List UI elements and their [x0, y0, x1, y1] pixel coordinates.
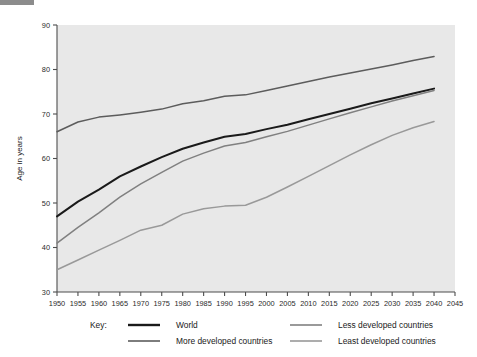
- y-axis-title: Age in years: [15, 136, 24, 180]
- x-axis-tick-label: 1980: [174, 299, 190, 308]
- x-axis-tick-label: 1985: [195, 299, 211, 308]
- x-axis-tick-label: 1955: [70, 299, 86, 308]
- x-axis-tick-label: 1995: [237, 299, 253, 308]
- x-axis-tick-label: 2025: [363, 299, 379, 308]
- legend-label-more-developed-countries: More developed countries: [176, 336, 272, 346]
- x-axis-tick-label: 1965: [112, 299, 128, 308]
- x-axis-tick-label: 1990: [216, 299, 232, 308]
- y-axis-tick-label: 90: [42, 21, 50, 30]
- x-axis-tick-label: 1950: [49, 299, 65, 308]
- x-axis-tick-label: 2020: [342, 299, 358, 308]
- x-axis-tick-label: 1970: [133, 299, 149, 308]
- life-expectancy-chart-figure: 3040506070809019501955196019651970197519…: [0, 0, 477, 357]
- y-axis-tick-label: 50: [42, 199, 50, 208]
- legend-label-less-developed-countries: Less developed countries: [338, 320, 433, 330]
- x-axis-tick-label: 2005: [279, 299, 295, 308]
- x-axis-tick-label: 2010: [300, 299, 316, 308]
- y-axis-tick-label: 40: [42, 243, 50, 252]
- x-axis-tick-label: 2000: [258, 299, 274, 308]
- y-axis-tick-label: 60: [42, 154, 50, 163]
- y-axis-tick-label: 70: [42, 110, 50, 119]
- x-axis-tick-label: 2040: [426, 299, 442, 308]
- x-axis-tick-label: 2045: [447, 299, 463, 308]
- x-axis-tick-label: 2035: [405, 299, 421, 308]
- x-axis-tick-label: 2015: [321, 299, 337, 308]
- x-axis-tick-label: 1975: [154, 299, 170, 308]
- legend-label-least-developed-countries: Least developed countries: [338, 336, 436, 346]
- x-axis-tick-label: 1960: [91, 299, 107, 308]
- chart-canvas: 3040506070809019501955196019651970197519…: [0, 0, 477, 357]
- legend-key-label: Key:: [90, 320, 107, 330]
- legend-label-world: World: [176, 320, 198, 330]
- y-axis-tick-label: 30: [42, 288, 50, 297]
- x-axis-tick-label: 2030: [384, 299, 400, 308]
- y-axis-tick-label: 80: [42, 65, 50, 74]
